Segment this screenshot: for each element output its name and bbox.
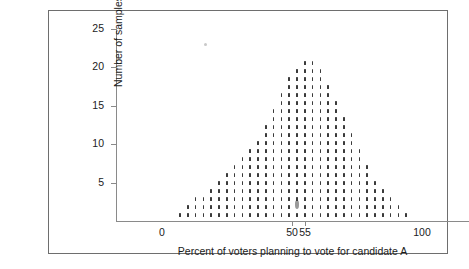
dot-mark [320, 93, 322, 97]
dot-column [281, 29, 284, 221]
dot-mark [304, 125, 306, 129]
dot-column [288, 29, 291, 221]
dot-mark [312, 61, 314, 65]
dot-mark [218, 181, 220, 185]
dot-mark [359, 173, 361, 177]
dot-mark [359, 165, 361, 169]
figure-frame: Number of samples Percent of voters plan… [48, 10, 448, 254]
dot-mark [288, 133, 290, 137]
dot-mark [296, 109, 298, 113]
dot-mark [265, 149, 267, 153]
dot-mark [359, 189, 361, 193]
dot-mark [351, 181, 353, 185]
dot-mark [312, 133, 314, 137]
dot-mark [234, 181, 236, 185]
dot-mark [187, 213, 189, 217]
dot-mark [296, 101, 298, 105]
dot-mark [304, 189, 306, 193]
dot-mark [320, 197, 322, 201]
dot-column [242, 29, 245, 221]
dot-mark [351, 165, 353, 169]
dot-mark [343, 157, 345, 161]
dot-mark [296, 85, 298, 89]
dot-mark [273, 165, 275, 169]
dot-mark [366, 165, 368, 169]
dot-mark [327, 197, 329, 201]
dot-mark [320, 213, 322, 217]
dot-mark [320, 85, 322, 89]
dot-mark [249, 213, 251, 217]
dot-mark [312, 69, 314, 73]
dot-mark [226, 189, 228, 193]
dot-mark [242, 173, 244, 177]
dot-mark [359, 205, 361, 209]
dot-mark [335, 117, 337, 121]
dot-mark [304, 77, 306, 81]
dot-mark [312, 173, 314, 177]
dot-mark [351, 141, 353, 145]
dot-mark [320, 181, 322, 185]
dot-mark [187, 205, 189, 209]
dot-mark [359, 157, 361, 161]
dot-mark [296, 117, 298, 121]
dot-mark [320, 77, 322, 81]
dot-mark [359, 181, 361, 185]
dot-mark [296, 189, 298, 193]
dot-mark [296, 133, 298, 137]
dot-mark [312, 157, 314, 161]
dot-column [226, 29, 229, 221]
dot-mark [374, 181, 376, 185]
dot-mark [304, 149, 306, 153]
dot-column [382, 29, 385, 221]
dot-mark [249, 205, 251, 209]
dot-mark [288, 189, 290, 193]
dot-mark [304, 109, 306, 113]
dot-mark [390, 197, 392, 201]
dot-mark [242, 205, 244, 209]
dot-mark [288, 205, 290, 209]
dot-mark [304, 197, 306, 201]
dot-mark [273, 173, 275, 177]
dot-mark [382, 213, 384, 217]
dot-mark [304, 69, 306, 73]
dot-mark [335, 213, 337, 217]
dot-mark [327, 101, 329, 105]
dot-mark [288, 165, 290, 169]
dot-mark [312, 85, 314, 89]
dot-mark [327, 149, 329, 153]
dot-column [351, 29, 354, 221]
dot-mark [312, 93, 314, 97]
dot-mark [366, 213, 368, 217]
dot-mark [226, 205, 228, 209]
dot-mark [257, 165, 259, 169]
dot-mark [327, 173, 329, 177]
dot-column [304, 29, 307, 221]
dot-mark [374, 213, 376, 217]
dot-mark [343, 165, 345, 169]
dot-mark [257, 181, 259, 185]
dot-mark [249, 173, 251, 177]
dot-mark [304, 101, 306, 105]
dot-mark [304, 117, 306, 121]
dot-mark [312, 117, 314, 121]
dot-mark [288, 93, 290, 97]
dot-mark [304, 205, 306, 209]
dot-mark [218, 213, 220, 217]
dot-mark [382, 205, 384, 209]
dot-mark [265, 173, 267, 177]
dot-mark [218, 189, 220, 193]
dot-mark [288, 125, 290, 129]
dot-mark [351, 189, 353, 193]
dot-mark [273, 109, 275, 113]
dot-mark [312, 181, 314, 185]
dot-mark [273, 149, 275, 153]
dot-mark [320, 205, 322, 209]
dot-mark [312, 189, 314, 193]
dot-mark [304, 157, 306, 161]
dot-mark [296, 165, 298, 169]
dot-mark [226, 173, 228, 177]
dot-mark [179, 213, 181, 217]
dot-mark [335, 149, 337, 153]
dot-mark [374, 189, 376, 193]
